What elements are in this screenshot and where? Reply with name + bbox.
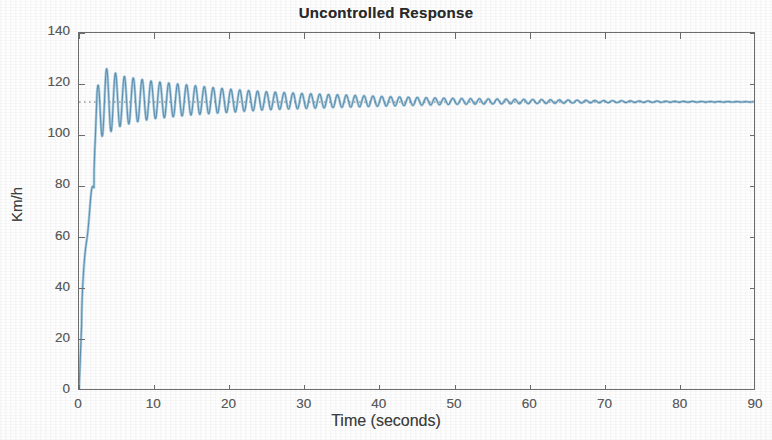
y-tick-left [79,84,85,85]
x-tick-bottom [229,385,230,390]
x-tick-top [605,33,606,39]
x-tick-label: 20 [208,396,248,411]
x-tick-bottom [379,385,380,390]
x-tick-label: 60 [509,396,549,411]
y-tick-label: 140 [28,23,70,38]
x-tick-bottom [154,385,155,390]
x-tick-label: 80 [660,396,700,411]
x-tick-top [78,33,79,39]
x-tick-top [154,33,155,39]
y-tick-left [79,339,85,340]
x-tick-label: 30 [284,396,324,411]
x-tick-top [680,33,681,39]
chart-title: Uncontrolled Response [0,4,772,21]
x-tick-top [530,33,531,39]
y-tick-left [79,288,85,289]
y-tick-left [79,32,85,33]
y-tick-right [750,84,755,85]
y-tick-label: 60 [28,228,70,243]
y-tick-right [750,186,755,187]
x-tick-bottom [530,385,531,390]
y-axis-title: Km/h [8,155,25,255]
x-tick-bottom [605,385,606,390]
y-tick-label: 0 [28,381,70,396]
data-trace-group [79,69,755,390]
y-tick-label: 20 [28,330,70,345]
y-tick-right [750,288,755,289]
x-tick-top [379,33,380,39]
x-tick-label: 0 [58,396,98,411]
x-tick-label: 40 [359,396,399,411]
y-tick-right [750,135,755,136]
x-tick-label: 90 [735,396,772,411]
response-trace-halo [79,69,755,390]
x-tick-top [304,33,305,39]
x-axis-title: Time (seconds) [0,412,772,430]
y-axis-title-wrap: Km/h [2,150,30,270]
y-tick-label: 40 [28,279,70,294]
y-tick-right [750,339,755,340]
y-tick-label: 100 [28,125,70,140]
x-tick-bottom [680,385,681,390]
x-tick-bottom [78,385,79,390]
y-tick-left [79,135,85,136]
y-tick-left [79,186,85,187]
x-tick-label: 10 [133,396,173,411]
y-tick-right [750,32,755,33]
chart-figure: Uncontrolled Response 010203040506070809… [0,0,772,440]
x-tick-bottom [304,385,305,390]
y-tick-label: 120 [28,74,70,89]
y-tick-label: 80 [28,176,70,191]
y-tick-right [750,237,755,238]
x-tick-top [229,33,230,39]
x-tick-label: 70 [585,396,625,411]
x-tick-bottom [455,385,456,390]
y-tick-left [79,237,85,238]
plot-area [78,32,755,390]
response-trace [79,69,755,390]
x-tick-top [455,33,456,39]
x-tick-label: 50 [434,396,474,411]
plot-svg [79,33,755,390]
